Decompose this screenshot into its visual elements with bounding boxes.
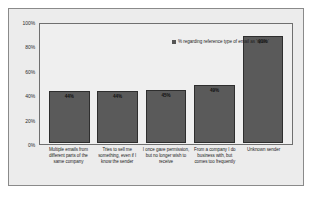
bar-value-label: 45%: [147, 93, 186, 98]
bar[interactable]: 45%: [146, 90, 187, 143]
bar-slot: 44%: [93, 25, 141, 143]
y-axis-tick: 40%: [25, 93, 35, 99]
x-axis-category-label: Tries to sell me something, even if I kn…: [93, 147, 142, 166]
x-axis-category-label: I once gave permission, but no longer wi…: [142, 147, 191, 166]
legend-label: % regarding reference type of email as '…: [178, 39, 269, 44]
y-axis-tick: 60%: [25, 69, 35, 75]
plot-area: % regarding reference type of email as '…: [39, 23, 293, 145]
bar[interactable]: 44%: [97, 91, 138, 143]
bar-value-label: 44%: [98, 94, 137, 99]
bar[interactable]: 44%: [49, 91, 90, 143]
y-axis-tick: 80%: [25, 44, 35, 50]
legend-square-icon: [172, 40, 176, 44]
bar-slot: 44%: [45, 25, 93, 143]
bar-value-label: 49%: [195, 88, 234, 93]
x-axis-category-label: From a company I do business with, but c…: [190, 147, 239, 166]
chart-figure: 100%80%60%40%20%0% % regarding reference…: [8, 8, 304, 186]
bar[interactable]: 91%: [243, 36, 284, 143]
x-axis-category-label: Unknown sender: [239, 147, 288, 166]
bar-value-label: 44%: [50, 94, 89, 99]
x-axis-category-label: Multiple emails from different parts of …: [44, 147, 93, 166]
y-axis-tick: 100%: [23, 20, 35, 26]
chart-legend: % regarding reference type of email as '…: [172, 39, 269, 44]
y-axis: 100%80%60%40%20%0%: [9, 23, 37, 145]
y-axis-tick: 20%: [25, 118, 35, 124]
y-axis-tick: 0%: [28, 142, 35, 148]
bar[interactable]: 49%: [194, 85, 235, 143]
x-axis: Multiple emails from different parts of …: [40, 147, 292, 166]
